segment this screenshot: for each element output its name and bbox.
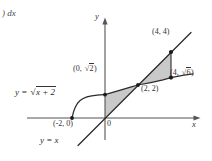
sqrt-icon: √x + 2	[30, 88, 56, 97]
point-0-sqrt2	[103, 93, 107, 97]
point-label-4-sqrt6-open: (4,	[170, 68, 181, 77]
origin-label: 0	[107, 120, 111, 128]
point-label-4-sqrt6-expr: 6	[186, 67, 191, 77]
point-4-4	[169, 50, 173, 54]
point-label-2-2: (2, 2)	[141, 85, 158, 93]
sqrt-icon: √2	[84, 65, 94, 73]
point-2-2	[136, 83, 140, 87]
point-label-0-sqrt2-close: )	[94, 64, 97, 73]
point-label-0-sqrt2-open: (0,	[73, 64, 84, 73]
expression-fragment: ) dx	[2, 9, 16, 18]
y-axis-arrow-icon	[102, 18, 107, 25]
point-label-4-sqrt6: (4, √6)	[170, 69, 194, 77]
point-label-neg2-0: (-2, 0)	[53, 120, 73, 128]
x-axis-label: x	[192, 120, 196, 129]
y-axis-label: y	[95, 12, 99, 21]
curve-label-sqrt-prefix: y =	[15, 87, 30, 97]
curve-label-line: y = x	[40, 136, 59, 145]
sqrt-icon: √6	[181, 69, 191, 77]
point-label-0-sqrt2: (0, √2)	[73, 65, 97, 73]
math-figure	[0, 0, 212, 161]
point-label-4-sqrt6-close: )	[191, 68, 194, 77]
point-label-4-4: (4, 4)	[152, 28, 169, 36]
curve-label-sqrt-expr: x + 2	[36, 86, 56, 97]
curve-line	[78, 33, 191, 146]
curve-sqrt	[72, 74, 193, 118]
point-label-0-sqrt2-expr: 2	[89, 63, 94, 73]
curve-label-sqrt: y = √x + 2	[15, 88, 56, 97]
